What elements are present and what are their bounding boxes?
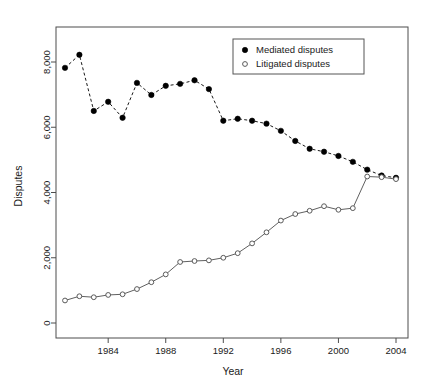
data-point	[207, 258, 212, 263]
x-tick-label: 1988	[155, 345, 176, 356]
data-point	[321, 149, 326, 154]
data-point	[350, 206, 355, 211]
data-point	[120, 115, 125, 120]
data-point	[365, 167, 370, 172]
data-point	[350, 159, 355, 164]
data-point	[163, 272, 168, 277]
data-point	[394, 177, 399, 182]
data-point	[177, 81, 182, 86]
data-point	[249, 118, 254, 123]
data-point	[221, 255, 226, 260]
y-tick-label: 8,000	[41, 50, 52, 74]
legend-filled-circle-icon	[242, 47, 247, 52]
data-point	[278, 128, 283, 133]
data-point	[192, 259, 197, 264]
data-point	[235, 116, 240, 121]
y-tick-label: 4,000	[41, 181, 52, 205]
legend-entry-label: Litigated disputes	[256, 58, 330, 69]
data-point	[307, 146, 312, 151]
data-point	[235, 251, 240, 256]
x-tick-label: 1992	[213, 345, 234, 356]
data-point	[149, 92, 154, 97]
data-point	[135, 287, 140, 292]
x-tick-label: 1984	[98, 345, 119, 356]
data-point	[293, 138, 298, 143]
legend-open-circle-icon	[243, 62, 248, 67]
data-point	[250, 241, 255, 246]
y-tick-label: 6,000	[41, 115, 52, 139]
data-point	[221, 118, 226, 123]
data-point	[149, 280, 154, 285]
data-point	[77, 294, 82, 299]
data-point	[63, 298, 68, 303]
data-point	[379, 175, 384, 180]
data-point	[178, 260, 183, 265]
y-axis-title: Disputes	[12, 166, 24, 207]
data-point	[264, 121, 269, 126]
y-tick-label: 0	[41, 320, 52, 325]
data-point	[105, 99, 110, 104]
data-point	[91, 108, 96, 113]
chart-legend: Mediated disputesLitigated disputes	[233, 39, 364, 74]
legend-entry-label: Mediated disputes	[256, 44, 333, 55]
x-axis-title: Year	[222, 365, 244, 377]
x-tick-label: 2000	[328, 345, 349, 356]
data-point	[336, 207, 341, 212]
data-point	[120, 292, 125, 297]
data-point	[192, 78, 197, 83]
data-point	[322, 204, 327, 209]
data-point	[264, 230, 269, 235]
data-point	[307, 208, 312, 213]
data-point	[206, 86, 211, 91]
data-point	[365, 174, 370, 179]
data-point	[77, 52, 82, 57]
x-tick-label: 2004	[385, 345, 406, 356]
data-point	[163, 83, 168, 88]
x-tick-label: 1996	[270, 345, 291, 356]
data-point	[134, 80, 139, 85]
data-point	[278, 218, 283, 223]
y-tick-label: 2,000	[41, 246, 52, 270]
chart-figure: 02,0004,0006,0008,000 198419881992199620…	[0, 0, 422, 387]
disputes-line-chart: 02,0004,0006,0008,000 198419881992199620…	[0, 0, 422, 387]
data-point	[293, 212, 298, 217]
data-point	[106, 293, 111, 298]
data-point	[62, 65, 67, 70]
data-point	[91, 295, 96, 300]
data-point	[336, 153, 341, 158]
